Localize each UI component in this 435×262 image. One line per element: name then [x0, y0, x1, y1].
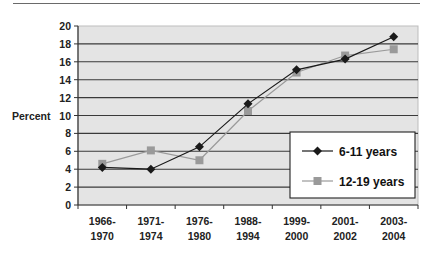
- x-tick-label: 1988-1994: [235, 215, 262, 242]
- legend-label: 12-19 years: [339, 175, 405, 189]
- legend-label: 6-11 years: [339, 145, 397, 159]
- y-tick-label: 14: [59, 74, 71, 86]
- legend: 6-11 years12-19 years: [290, 132, 415, 198]
- data-point-square-icon: [195, 156, 203, 164]
- x-tick-label: 1966-1970: [89, 215, 116, 242]
- y-tick-label: 10: [59, 110, 71, 122]
- y-tick-label: 2: [65, 181, 71, 193]
- y-tick-label: 20: [59, 20, 71, 32]
- x-tick-label: 1999-2000: [283, 215, 310, 242]
- legend-square-icon: [314, 177, 322, 185]
- y-tick-label: 12: [59, 92, 71, 104]
- data-point-square-icon: [390, 45, 398, 53]
- y-tick-label: 4: [65, 163, 71, 175]
- y-tick-label: 0: [65, 199, 71, 211]
- data-point-square-icon: [147, 146, 155, 154]
- line-chart: 02468101214161820Percent1966-19701971-19…: [0, 0, 435, 262]
- x-tick-label: 1976-1980: [186, 215, 213, 242]
- y-tick-label: 18: [59, 38, 71, 50]
- y-tick-label: 16: [59, 56, 71, 68]
- y-axis-label: Percent: [12, 110, 51, 122]
- x-tick-label: 1971-1974: [137, 215, 164, 242]
- y-tick-label: 8: [65, 127, 71, 139]
- y-tick-label: 6: [65, 145, 71, 157]
- x-tick-label: 2003-2004: [380, 215, 407, 242]
- x-tick-label: 2001-2002: [332, 215, 359, 242]
